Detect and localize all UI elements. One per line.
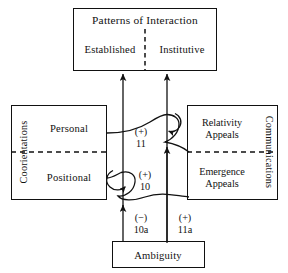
- annotation-link-10a: (−) 10a: [134, 212, 149, 235]
- annotation-link-10a-sign: (−): [134, 212, 149, 224]
- emergence-appeals-line1: Emergence: [199, 166, 245, 178]
- annotation-link-11a-number: 11a: [178, 224, 192, 236]
- coorientations-cell-personal: Personal: [50, 123, 88, 134]
- patterns-cell-institutive: Institutive: [159, 44, 204, 55]
- annotation-link-11a-sign: (+): [178, 212, 192, 224]
- annotation-link-11-number: 11: [135, 138, 148, 150]
- communications-cell-relativity-appeals: Relativity Appeals: [202, 117, 242, 140]
- patterns-cell-established: Established: [84, 44, 135, 55]
- annotation-link-10: (+) 10: [139, 169, 152, 192]
- coorientations-cell-positional: Positional: [47, 172, 91, 183]
- ambiguity-label: Ambiguity: [134, 250, 182, 261]
- annotation-link-10-sign: (+): [139, 169, 152, 181]
- annotation-link-10-number: 10: [139, 181, 152, 193]
- annotation-link-11a: (+) 11a: [178, 212, 192, 235]
- annotation-link-11-sign: (+): [135, 126, 148, 138]
- relativity-appeals-line2: Appeals: [202, 129, 242, 141]
- annotation-link-10a-number: 10a: [134, 224, 149, 236]
- emergence-appeals-line2: Appeals: [199, 178, 245, 190]
- communications-cell-emergence-appeals: Emergence Appeals: [199, 166, 245, 189]
- diagram-canvas: Patterns of Interaction Established Inst…: [0, 0, 288, 273]
- annotation-link-11: (+) 11: [135, 126, 148, 149]
- coorientations-side-label: Coorientations: [18, 121, 29, 184]
- communications-side-label: Communications: [264, 116, 275, 188]
- spiral-link-11: [107, 114, 189, 153]
- patterns-title: Patterns of Interaction: [92, 14, 198, 26]
- relativity-appeals-line1: Relativity: [202, 117, 242, 129]
